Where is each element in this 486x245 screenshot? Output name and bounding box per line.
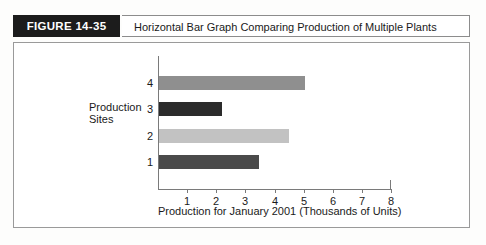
plot-area: 1234 12345678 [158,56,391,189]
x-axis-tick-mark-6 [333,189,334,193]
figure-title-label: Horizontal Bar Graph Comparing Productio… [134,16,437,38]
chart-frame: Production Sites 1234 12345678 Productio… [13,42,470,228]
plot-right-edge-tick [390,180,391,189]
x-axis-tick-mark-7 [362,189,363,193]
y-axis-tick-label-2: 2 [131,129,153,143]
figure-header: FIGURE 14-35 Horizontal Bar Graph Compar… [13,15,470,37]
bar-site-2 [159,129,289,143]
bar-site-4 [159,76,305,90]
figure-title-box: Horizontal Bar Graph Comparing Productio… [122,15,470,37]
x-axis-tick-mark-3 [245,189,246,193]
x-axis-tick-mark-2 [216,189,217,193]
x-axis-tick-mark-1 [187,189,188,193]
y-axis-tick-label-1: 1 [131,155,153,169]
figure-number-box: FIGURE 14-35 [13,15,120,37]
bar-site-1 [159,155,259,169]
figure-number-label: FIGURE 14-35 [13,15,120,37]
bar-site-3 [159,102,222,116]
x-axis-tick-mark-4 [275,189,276,193]
y-axis-tick-label-3: 3 [131,102,153,116]
y-axis-tick-label-4: 4 [131,76,153,90]
x-axis-title: Production for January 2001 (Thousands o… [158,205,391,217]
x-axis-tick-mark-5 [304,189,305,193]
x-axis-tick-mark-8 [391,189,392,193]
